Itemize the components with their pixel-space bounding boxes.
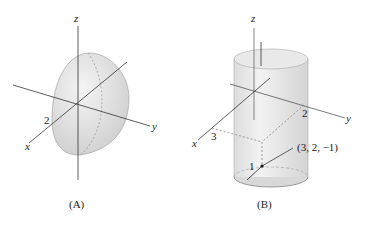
figure-a-hemisphere bbox=[13, 26, 150, 180]
fig-b-y-tick: 2 bbox=[302, 107, 308, 119]
fig-b-y-label: y bbox=[346, 112, 351, 124]
fig-a-caption: (A) bbox=[69, 198, 84, 210]
fig-a-z-label: z bbox=[74, 12, 78, 24]
fig-b-point-label: (3, 2, −1) bbox=[297, 141, 338, 153]
fig-b-radius-label: 1 bbox=[249, 160, 255, 172]
fig-a-x-tick: 2 bbox=[44, 114, 50, 126]
figure-b-cylinder bbox=[198, 28, 345, 187]
fig-b-z-label: z bbox=[251, 12, 255, 24]
fig-b-x-tick: 3 bbox=[211, 130, 217, 142]
diagram-canvas bbox=[0, 0, 370, 225]
fig-b-x-label: x bbox=[192, 137, 197, 149]
fig-a-y-label: y bbox=[152, 120, 157, 132]
fig-b-caption: (B) bbox=[257, 198, 272, 210]
fig-a-x-label: x bbox=[25, 140, 30, 152]
